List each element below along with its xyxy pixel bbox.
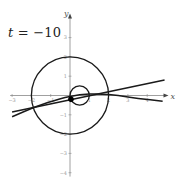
- y-tick-label: 3: [64, 34, 67, 40]
- x-axis-arrow-icon: [164, 94, 169, 98]
- parameter-value: −10: [33, 25, 61, 40]
- current-point: [68, 97, 74, 103]
- y-tick-label: −3: [60, 150, 67, 156]
- parametric-plot-figure: xy−3−2−11234321−1−2−3−4 t = −10: [0, 0, 182, 182]
- y-axis-label: y: [63, 9, 69, 18]
- y-tick-label: −4: [60, 170, 67, 176]
- x-axis-label: x: [171, 92, 176, 101]
- y-tick-label: 1: [64, 73, 67, 79]
- y-tick-label: −1: [60, 112, 67, 118]
- parameter-equals: =: [13, 25, 33, 40]
- y-axis-arrow-icon: [68, 13, 72, 18]
- parameter-label: t = −10: [8, 25, 61, 40]
- x-tick-label: −3: [8, 97, 15, 103]
